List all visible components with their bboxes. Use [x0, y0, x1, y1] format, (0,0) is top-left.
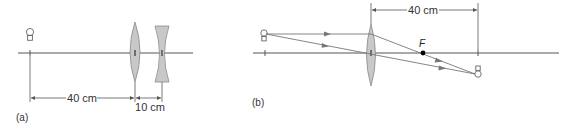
- dimension-10cm-a: 10 cm: [135, 98, 165, 113]
- panel-caption-b: (b): [252, 97, 264, 108]
- dimension-40cm-a: 40 cm: [31, 92, 134, 104]
- dimension-label: 40 cm: [408, 4, 438, 16]
- focal-point-icon: [421, 51, 426, 56]
- inverted-light-bulb-icon: [475, 66, 481, 77]
- light-bulb-icon: [26, 28, 33, 40]
- panel-caption-a: (a): [16, 112, 28, 123]
- panel-a: 40 cm 10 cm (a): [16, 22, 193, 123]
- light-bulb-icon: [261, 30, 267, 41]
- panel-b: F 40 cm (b): [252, 3, 559, 108]
- dimension-40cm-b: 40 cm: [372, 4, 477, 16]
- optics-diagram: 40 cm 10 cm (a): [0, 0, 579, 138]
- focal-point-label: F: [419, 38, 426, 49]
- dimension-label: 10 cm: [135, 101, 165, 113]
- dimension-label: 40 cm: [67, 92, 97, 104]
